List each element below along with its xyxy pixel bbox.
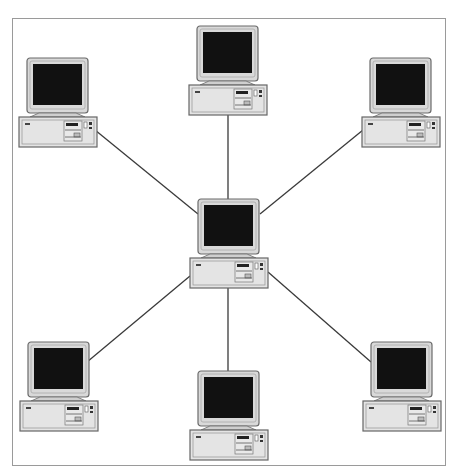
screen <box>33 64 82 105</box>
computer-bottom-right: Computer (bottom-right) <box>363 342 441 431</box>
screen <box>203 32 252 73</box>
system-unit-icon <box>20 401 98 431</box>
link-bottom-right <box>268 272 371 362</box>
screen <box>376 64 425 105</box>
link-top-left <box>95 130 198 214</box>
monitor-icon <box>27 58 88 117</box>
system-unit-icon <box>190 430 268 460</box>
link-bottom-left <box>87 276 190 362</box>
system-unit-icon <box>363 401 441 431</box>
monitor-icon <box>370 58 431 117</box>
monitor-icon <box>371 342 432 401</box>
screen <box>34 348 83 389</box>
screen <box>204 205 253 246</box>
star-topology-diagram: Star network topology Central computer (… <box>0 0 458 474</box>
network-canvas: Central computer (hub)Computer (top)Comp… <box>0 0 458 474</box>
screen <box>204 377 253 418</box>
computer-bottom: Computer (bottom) <box>190 371 268 460</box>
computer-top: Computer (top) <box>189 26 267 115</box>
network-nodes: Central computer (hub)Computer (top)Comp… <box>19 26 441 460</box>
computer-hub: Central computer (hub) <box>190 199 268 288</box>
system-unit-icon <box>189 85 267 115</box>
monitor-icon <box>28 342 89 401</box>
computer-bottom-left: Computer (bottom-left) <box>20 342 98 431</box>
computer-top-right: Computer (top-right) <box>362 58 440 147</box>
system-unit-icon <box>19 117 97 147</box>
system-unit-icon <box>362 117 440 147</box>
system-unit-icon <box>190 258 268 288</box>
computer-top-left: Computer (top-left) <box>19 58 97 147</box>
monitor-icon <box>197 26 258 85</box>
screen <box>377 348 426 389</box>
monitor-icon <box>198 371 259 430</box>
monitor-icon <box>198 199 259 258</box>
link-top-right <box>260 130 363 214</box>
